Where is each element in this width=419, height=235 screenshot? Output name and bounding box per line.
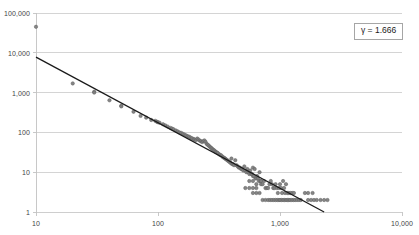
gamma-annotation-box: γ = 1.666 bbox=[354, 23, 403, 40]
y-axis-tick-label: 10,000 bbox=[8, 49, 30, 56]
y-axis-tick-label: 100 bbox=[18, 129, 30, 136]
power-law-scatter-chart: 1101001,00010,000100,000101001,00010,000… bbox=[0, 0, 419, 235]
y-axis-tick-label: 10 bbox=[22, 169, 30, 176]
gamma-annotation-text: γ = 1.666 bbox=[361, 25, 396, 35]
y-axis-tick-label: 100,000 bbox=[4, 10, 30, 17]
x-axis-tick-label: 10,000 bbox=[391, 220, 413, 227]
y-axis-tick-label: 1 bbox=[26, 209, 30, 216]
x-axis-tick-label: 100 bbox=[152, 220, 164, 227]
y-axis-tick-label: 1,000 bbox=[12, 89, 30, 96]
x-axis-tick-label: 1,000 bbox=[271, 220, 289, 227]
x-axis-tick-label: 10 bbox=[32, 220, 40, 227]
